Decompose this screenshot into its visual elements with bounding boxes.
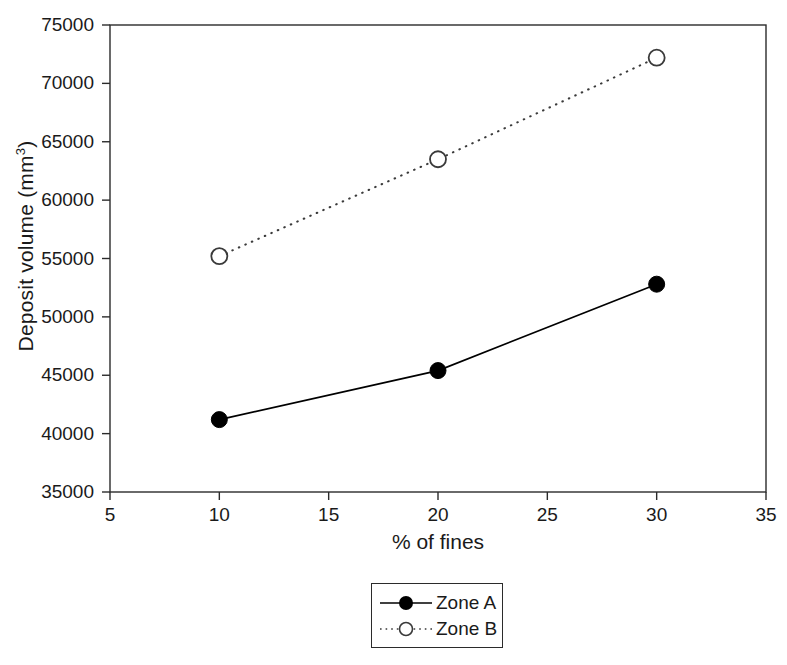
legend-entry-zone-b: Zone B	[372, 615, 504, 643]
legend-label-zone-b: Zone B	[436, 618, 497, 640]
legend-entry-zone-a: Zone A	[372, 589, 504, 617]
axis-ticks	[102, 25, 766, 500]
data-point-zone-a	[211, 412, 227, 428]
chart-figure: Deposit volume (mm3) % of fines 35000400…	[0, 0, 787, 665]
data-point-zone-a	[649, 276, 665, 292]
data-series-group	[211, 50, 664, 428]
legend-swatch-zone-a	[378, 592, 434, 614]
data-point-zone-b	[649, 50, 665, 66]
data-point-zone-b	[211, 248, 227, 264]
legend-swatch-zone-b	[378, 618, 434, 640]
legend: Zone A Zone B	[371, 583, 503, 648]
plot-frame	[110, 25, 766, 492]
plot-area	[0, 0, 787, 665]
axes-frame	[110, 25, 766, 492]
data-point-zone-a	[430, 363, 446, 379]
legend-label-zone-a: Zone A	[436, 592, 496, 614]
series-line-zone-a	[219, 284, 656, 419]
data-point-zone-b	[430, 151, 446, 167]
